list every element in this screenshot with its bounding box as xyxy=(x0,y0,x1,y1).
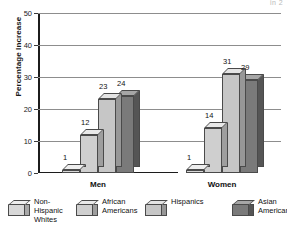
legend-cube-side-face xyxy=(249,204,254,216)
y-axis-title: Percentage Increase xyxy=(14,7,23,107)
legend-cube-side-face xyxy=(162,204,167,216)
bar-value-label: 24 xyxy=(117,79,125,88)
bar-side-face xyxy=(240,68,246,167)
y-axis-tick-label: 40 xyxy=(10,41,32,50)
y-axis-tick xyxy=(34,173,38,174)
bar-side-face xyxy=(258,74,264,167)
y-axis-tick-label: 10 xyxy=(10,137,32,146)
bar-front-face xyxy=(186,170,204,173)
bar-side-face xyxy=(116,93,122,167)
gridline xyxy=(38,45,281,46)
y-axis-tick-label: 50 xyxy=(10,9,32,18)
legend-cube-side-face xyxy=(25,204,30,216)
y-axis-line xyxy=(38,13,40,173)
bar-value-label: 14 xyxy=(205,111,213,120)
bar-side-face xyxy=(134,90,140,167)
bar-value-label: 1 xyxy=(63,153,67,162)
y-axis-tick xyxy=(34,109,38,110)
y-axis-tick-label: 20 xyxy=(10,105,32,114)
legend-cube-front-face xyxy=(8,204,25,216)
legend-cube-front-face xyxy=(145,204,162,216)
legend-item-label: African Americans xyxy=(102,197,137,215)
legend-swatch-cube-icon xyxy=(8,200,30,216)
bar xyxy=(186,170,204,173)
y-axis-tick-label: 0 xyxy=(10,169,32,178)
bar-value-label: 29 xyxy=(241,63,249,72)
y-axis-tick xyxy=(34,77,38,78)
legend-cube-side-face xyxy=(93,204,98,216)
x-axis-group-label: Men xyxy=(56,180,140,189)
header-text-fragment: in 2 xyxy=(270,0,283,6)
bar-value-label: 23 xyxy=(99,82,107,91)
legend-item-label: Asian Americans xyxy=(258,197,287,215)
legend-item-label: Non- Hispanic Whites xyxy=(34,197,63,224)
y-axis-tick xyxy=(34,141,38,142)
bar-value-label: 31 xyxy=(223,57,231,66)
bar-front-face xyxy=(62,170,80,173)
chart-legend: Non- Hispanic WhitesAfrican AmericansHis… xyxy=(0,195,287,225)
legend-swatch-cube-icon xyxy=(76,200,98,216)
bar-value-label: 12 xyxy=(81,118,89,127)
gridline xyxy=(38,13,281,14)
chart-figure: in 2 Percentage Increase 01020304050 112… xyxy=(0,0,287,225)
bar xyxy=(62,170,80,173)
y-axis-tick xyxy=(34,45,38,46)
plot-area: 01020304050 11223241143129 xyxy=(38,13,287,173)
legend-cube-front-face xyxy=(232,204,249,216)
bar-side-face xyxy=(222,122,228,167)
legend-item-label: Hispanics xyxy=(171,197,204,206)
legend-cube-front-face xyxy=(76,204,93,216)
legend-swatch-cube-icon xyxy=(145,200,167,216)
bar-value-label: 1 xyxy=(187,153,191,162)
bar-side-face xyxy=(98,129,104,167)
legend-swatch-cube-icon xyxy=(232,200,254,216)
y-axis-tick-label: 30 xyxy=(10,73,32,82)
y-axis-tick xyxy=(34,13,38,14)
x-axis-group-label: Women xyxy=(180,180,264,189)
